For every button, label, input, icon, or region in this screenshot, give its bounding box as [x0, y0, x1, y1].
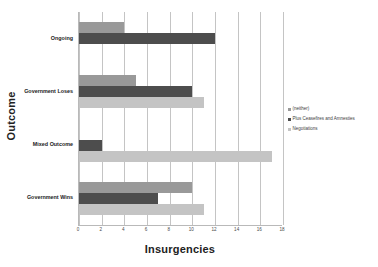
bar-row	[79, 182, 282, 193]
category-label: Government Loses	[20, 65, 76, 118]
bar-row	[79, 97, 282, 108]
bar[interactable]	[79, 140, 102, 151]
legend-label: Plus Ceasefires and Amnesties	[293, 117, 355, 122]
x-tick-label: 14	[234, 227, 239, 232]
bar[interactable]	[79, 151, 272, 162]
x-axis-tick-labels: 024681012141618	[78, 227, 282, 239]
bar-row	[79, 75, 282, 86]
bar-row	[79, 44, 282, 55]
bar[interactable]	[79, 97, 204, 108]
legend-label: Negotiations	[293, 127, 318, 132]
bar[interactable]	[79, 22, 124, 33]
legend-item[interactable]: Negotiations	[288, 125, 376, 133]
gridline	[283, 12, 284, 225]
bar-row	[79, 151, 282, 162]
y-axis-title: Outcome	[0, 0, 22, 232]
bar-group	[79, 119, 282, 172]
legend-label: (neither)	[293, 107, 310, 112]
bar[interactable]	[79, 204, 204, 215]
bar-row	[79, 22, 282, 33]
bar[interactable]	[79, 75, 136, 86]
bar-group	[79, 12, 282, 65]
bar[interactable]	[79, 193, 158, 204]
bars-layer	[79, 12, 282, 225]
plot-area	[78, 12, 282, 225]
category-label: Mixed Outcome	[20, 119, 76, 172]
legend-swatch-icon	[288, 128, 291, 131]
category-label: Ongoing	[20, 12, 76, 65]
x-tick-label: 6	[145, 227, 148, 232]
legend-swatch-icon	[288, 118, 291, 121]
bar-row	[79, 86, 282, 97]
x-tick-label: 8	[167, 227, 170, 232]
bar-chart-figure: Outcome OngoingGovernment LosesMixed Out…	[0, 0, 378, 267]
category-label: Government Wins	[20, 172, 76, 225]
chart-legend: (neither)Plus Ceasefires and AmnestiesNe…	[288, 105, 376, 135]
bar-group	[79, 65, 282, 118]
x-axis-title: Insurgencies	[78, 243, 282, 255]
legend-item[interactable]: (neither)	[288, 105, 376, 113]
bar[interactable]	[79, 182, 192, 193]
bar[interactable]	[79, 86, 192, 97]
y-axis-title-text: Outcome	[5, 91, 17, 140]
bar[interactable]	[79, 33, 215, 44]
x-tick-label: 12	[211, 227, 216, 232]
x-tick-label: 10	[189, 227, 194, 232]
bar-row	[79, 129, 282, 140]
x-tick-label: 2	[99, 227, 102, 232]
bar-group	[79, 172, 282, 225]
x-tick-label: 4	[122, 227, 125, 232]
bar-row	[79, 193, 282, 204]
bar-row	[79, 140, 282, 151]
legend-item[interactable]: Plus Ceasefires and Amnesties	[288, 115, 376, 123]
legend-swatch-icon	[288, 108, 291, 111]
x-tick-label: 16	[257, 227, 262, 232]
bar-row	[79, 33, 282, 44]
category-axis: OngoingGovernment LosesMixed OutcomeGove…	[20, 12, 76, 225]
x-tick-label: 0	[77, 227, 80, 232]
bar-row	[79, 204, 282, 215]
x-axis-line	[78, 225, 282, 226]
x-tick-label: 18	[279, 227, 284, 232]
